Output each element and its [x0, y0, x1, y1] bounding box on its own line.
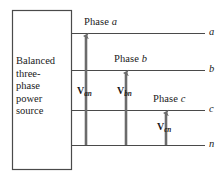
- voltage-subscript-van: an: [84, 90, 91, 98]
- source-box-label: Balanced three- phase power source: [16, 55, 72, 118]
- phase-b-label: Phase b: [114, 54, 147, 65]
- voltage-subscript-vbn: bn: [124, 90, 131, 98]
- terminal-label-n: n: [209, 139, 214, 150]
- phase-c-label: Phase c: [153, 94, 186, 105]
- terminal-label-a: a: [209, 27, 214, 38]
- phase-c-italic: c: [181, 93, 186, 104]
- voltage-label-vcn: Vcn: [157, 122, 171, 132]
- phase-a-label: Phase a: [84, 17, 117, 28]
- phase-a-italic: a: [112, 16, 117, 27]
- voltage-subscript-vcn: cn: [164, 126, 171, 134]
- terminal-label-c: c: [209, 104, 214, 115]
- voltage-label-vbn: Vbn: [117, 86, 132, 96]
- phase-b-italic: b: [142, 53, 147, 64]
- source-box-line-2: three-: [16, 68, 72, 81]
- terminal-label-b: b: [209, 64, 214, 75]
- phase-c-prefix: Phase: [153, 93, 181, 104]
- source-box-line-4: power: [16, 93, 72, 106]
- source-box-line-3: phase: [16, 80, 72, 93]
- phase-b-prefix: Phase: [114, 53, 142, 64]
- figure-canvas: Balanced three- phase power source Phase…: [0, 0, 220, 180]
- voltage-label-van: Van: [77, 86, 92, 96]
- phase-a-prefix: Phase: [84, 16, 112, 27]
- source-box-line-5: source: [16, 105, 72, 118]
- source-box-line-1: Balanced: [16, 55, 72, 68]
